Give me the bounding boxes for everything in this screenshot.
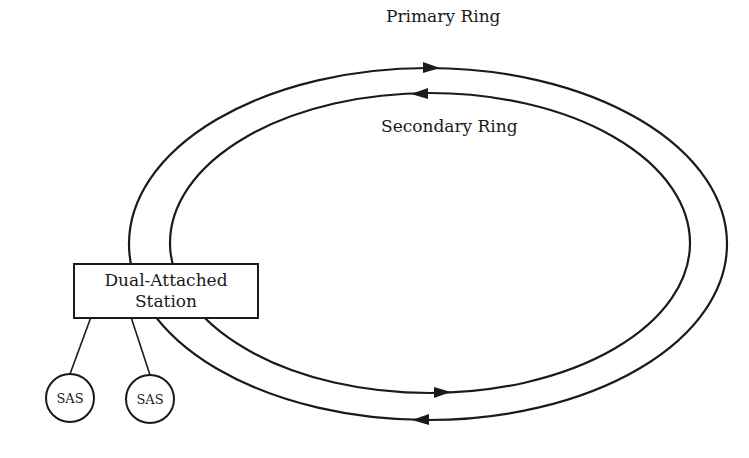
arrow-right-icon bbox=[423, 62, 440, 73]
sas-link-2 bbox=[131, 317, 150, 375]
arrow-right-icon bbox=[434, 387, 451, 398]
single-attached-station-1: SAS bbox=[45, 373, 95, 423]
secondary-ring-label: Secondary Ring bbox=[381, 116, 518, 136]
secondary-ring bbox=[170, 93, 690, 393]
arrow-left-icon bbox=[412, 414, 429, 425]
primary-ring-label: Primary Ring bbox=[386, 6, 500, 26]
arrow-left-icon bbox=[411, 88, 428, 99]
station-label-line1: Dual-Attached bbox=[104, 270, 227, 291]
ring-diagram bbox=[0, 0, 749, 458]
sas-label: SAS bbox=[136, 392, 163, 407]
station-label-line2: Station bbox=[135, 291, 197, 312]
dual-attached-station: Dual-Attached Station bbox=[73, 263, 259, 319]
sas-link-1 bbox=[70, 317, 91, 374]
sas-label: SAS bbox=[56, 391, 83, 406]
single-attached-station-2: SAS bbox=[125, 374, 175, 424]
